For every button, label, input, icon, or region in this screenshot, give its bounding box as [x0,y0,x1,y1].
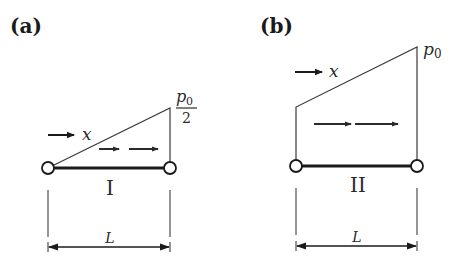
panel-b-x-label: x [329,61,339,81]
diagram-canvas: (a) x I p 0 2 L (b) [0,0,471,273]
panel-b: (b) x II p 0 L [260,14,442,251]
panel-b-load-sub: 0 [434,47,442,61]
panel-a-member-label: I [106,176,114,200]
panel-b-load-diagram [296,47,417,166]
panel-b-load-base: p [423,39,434,59]
panel-a-load-value: p 0 2 [176,87,197,126]
panel-a-load-numerator-base: p [176,87,186,106]
panel-b-load-value: p 0 [423,39,442,61]
panel-a-x-label: x [82,124,92,144]
panel-a-right-hinge-icon [164,162,176,174]
panel-a-load-denominator: 2 [182,110,191,126]
panel-a-label: (a) [10,14,42,38]
panel-a-left-hinge-icon [42,162,54,174]
panel-a-load-diagram [48,108,170,168]
panel-a-load-numerator-sub: 0 [186,95,193,108]
panel-b-right-hinge-icon [411,160,423,172]
panel-a: (a) x I p 0 2 L [10,14,197,252]
panel-b-label: (b) [260,14,293,38]
panel-b-left-hinge-icon [290,160,302,172]
panel-b-span-label: L [351,229,361,245]
panel-b-member-label: II [350,173,366,197]
panel-a-span-label: L [104,230,114,246]
